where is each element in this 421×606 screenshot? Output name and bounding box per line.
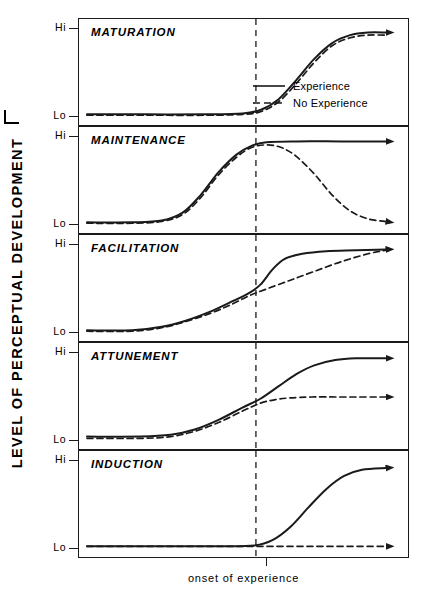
y-tick-label-hi-induction: Hi <box>36 453 66 465</box>
panel-title-attunement: ATTUNEMENT <box>91 350 178 362</box>
figure-root: LEVEL OF PERCEPTUAL DEVELOPMENT MATURATI… <box>0 0 421 606</box>
solid-line-key <box>252 81 286 91</box>
y-tick-mark-lo-maturation <box>69 116 78 117</box>
y-tick-label-hi-attunement: Hi <box>36 345 66 357</box>
x-axis-tick <box>266 558 267 566</box>
y-tick-label-lo-facilitation: Lo <box>36 325 66 337</box>
y-axis-label-text: LEVEL OF PERCEPTUAL DEVELOPMENT <box>9 138 25 468</box>
corner-bracket-mark <box>4 110 19 124</box>
curve-no-experience <box>87 250 386 331</box>
y-tick-label-hi-maintenance: Hi <box>36 129 66 141</box>
legend-label-no-experience: No Experience <box>293 97 368 109</box>
panel-title-maturation: MATURATION <box>91 26 176 38</box>
panel-title-induction: INDUCTION <box>91 458 163 470</box>
x-axis-label: onset of experience <box>0 568 421 586</box>
y-tick-mark-hi-facilitation <box>69 244 78 245</box>
y-tick-mark-lo-facilitation <box>69 332 78 333</box>
y-tick-label-hi-facilitation: Hi <box>36 237 66 249</box>
legend: Experience No Experience <box>252 78 368 112</box>
y-tick-label-lo-maintenance: Lo <box>36 217 66 229</box>
y-tick-label-lo-maturation: Lo <box>36 109 66 121</box>
curve-no-experience <box>87 145 386 223</box>
panel-title-facilitation: FACILITATION <box>91 242 179 254</box>
y-tick-label-hi-maturation: Hi <box>36 21 66 33</box>
panel-facilitation: FACILITATION <box>78 234 409 342</box>
panel-attunement: ATTUNEMENT <box>78 342 409 450</box>
y-tick-mark-hi-maturation <box>69 28 78 29</box>
y-axis-label: LEVEL OF PERCEPTUAL DEVELOPMENT <box>0 0 34 606</box>
panel-maintenance: MAINTENANCE <box>78 126 409 234</box>
panel-title-maintenance: MAINTENANCE <box>91 134 186 146</box>
y-tick-label-lo-attunement: Lo <box>36 433 66 445</box>
dashed-line-key <box>252 98 286 108</box>
x-axis-label-text: onset of experience <box>188 572 299 584</box>
curve-experience <box>87 468 386 546</box>
legend-item-experience: Experience <box>252 78 368 93</box>
curve-experience <box>87 141 386 222</box>
legend-label-experience: Experience <box>293 80 350 92</box>
y-tick-mark-lo-maintenance <box>69 224 78 225</box>
legend-item-no-experience: No Experience <box>252 95 368 110</box>
y-tick-mark-lo-attunement <box>69 440 78 441</box>
y-tick-mark-hi-induction <box>69 460 78 461</box>
y-tick-mark-lo-induction <box>69 548 78 549</box>
y-tick-mark-hi-attunement <box>69 352 78 353</box>
curve-no-experience <box>87 397 386 439</box>
y-tick-label-lo-induction: Lo <box>36 541 66 553</box>
y-tick-mark-hi-maintenance <box>69 136 78 137</box>
panel-induction: INDUCTION <box>78 450 409 558</box>
